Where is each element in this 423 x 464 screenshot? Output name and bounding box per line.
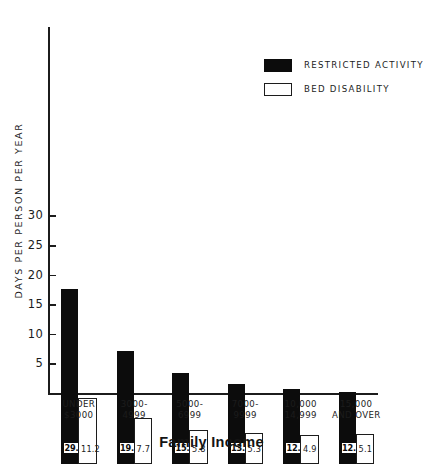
legend-swatch-bed-disability: [264, 83, 292, 96]
x-label-line: 9999: [215, 410, 275, 421]
x-axis-tick-label: UNDER$3000: [49, 399, 109, 421]
legend-item: BED DISABILITY: [264, 77, 414, 101]
x-label-line: 7000-: [232, 399, 259, 409]
y-axis-tick: [49, 304, 56, 306]
x-label-line: 15,000: [340, 399, 372, 409]
y-axis-tick-label: 5: [10, 356, 43, 370]
y-axis-title: DAYS PER PERSON PER YEAR: [13, 111, 24, 311]
x-axis-title: Family Income: [0, 434, 423, 450]
y-axis-tick: [49, 275, 56, 277]
x-axis-tick-label: 5000-6999: [160, 399, 220, 421]
x-label-line: 3000-: [121, 399, 148, 409]
x-label-line: $3000: [49, 410, 109, 421]
x-label-line: 10,000: [285, 399, 317, 409]
y-axis-line: [48, 27, 50, 395]
x-axis-tick-label: 15,000AND OVER: [326, 399, 386, 421]
x-label-line: 6999: [160, 410, 220, 421]
x-label-line: 5000-: [176, 399, 203, 409]
x-axis-tick-label: 7000-9999: [215, 399, 275, 421]
y-axis-tick: [49, 245, 56, 247]
y-axis-tick: [49, 334, 56, 336]
legend-label: BED DISABILITY: [304, 84, 390, 94]
legend-item: RESTRICTED ACTIVITY: [264, 53, 414, 77]
y-axis-tick-label: 10: [10, 327, 43, 341]
x-axis-tick-label: 10,00014,999: [271, 399, 331, 421]
x-axis-line: [48, 393, 378, 395]
y-axis-tick: [49, 215, 56, 217]
x-label-line: AND OVER: [326, 410, 386, 421]
chart-legend: RESTRICTED ACTIVITYBED DISABILITY: [264, 53, 414, 101]
x-label-line: UNDER: [62, 399, 95, 409]
x-axis-tick-label: 3000-4999: [104, 399, 164, 421]
bar-restricted-activity: 13.5: [228, 384, 245, 464]
legend-label: RESTRICTED ACTIVITY: [304, 60, 423, 70]
x-label-line: 14,999: [271, 410, 331, 421]
y-axis-tick: [49, 363, 56, 365]
bar-chart: 51015202530 DAYS PER PERSON PER YEAR 29.…: [0, 0, 423, 464]
x-label-line: 4999: [104, 410, 164, 421]
legend-swatch-restricted-activity: [264, 59, 292, 72]
